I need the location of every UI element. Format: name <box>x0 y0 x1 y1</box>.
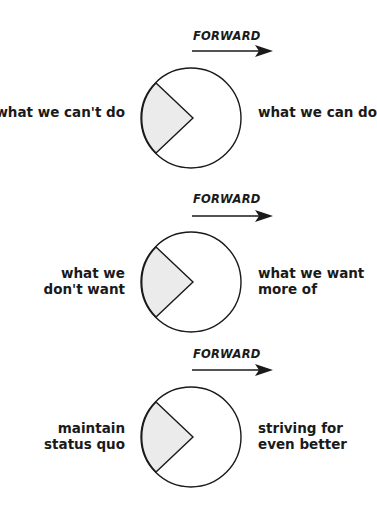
left-label: maintain status quo <box>44 420 125 452</box>
right-label: striving for even better <box>258 420 347 452</box>
right-arrow-icon <box>191 210 274 222</box>
left-label: what we don't want <box>44 265 125 297</box>
panel-3: FORWARD maintain status quo striving for… <box>0 0 374 165</box>
forward-label: FORWARD <box>193 348 260 360</box>
right-label-line: striving for <box>258 420 347 436</box>
right-label-line: more of <box>258 281 364 297</box>
right-arrow-icon <box>191 364 274 376</box>
right-label: what we want more of <box>258 265 364 297</box>
left-label-line: don't want <box>44 281 125 297</box>
left-label-line: status quo <box>44 436 125 452</box>
pie-circle <box>139 230 243 334</box>
right-label-line: even better <box>258 436 347 452</box>
left-label-line: maintain <box>44 420 125 436</box>
right-label-line: what we want <box>258 265 364 281</box>
pie-circle <box>139 385 243 489</box>
forward-label: FORWARD <box>193 193 260 205</box>
left-label-line: what we <box>44 265 125 281</box>
